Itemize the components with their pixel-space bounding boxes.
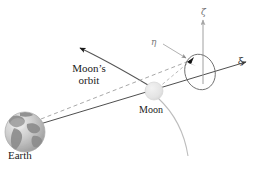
moon-orbit-label-line1: Moon’s: [58, 63, 120, 75]
earth-body: [5, 112, 45, 152]
moon-body: [145, 82, 163, 100]
orbital-diagram: Earth Moon Moon’s orbit ξ ζ η: [0, 0, 263, 171]
moon-orbit-label-line2: orbit: [58, 75, 120, 87]
moon-orbit-label: Moon’s orbit: [58, 63, 120, 86]
eta-axis-line: [163, 44, 186, 58]
diagram-canvas: [0, 0, 263, 171]
xi-axis-label: ξ: [238, 57, 243, 66]
moon-label: Moon: [139, 105, 163, 116]
zeta-axis-label: ζ: [201, 8, 206, 17]
eta-axis-label: η: [151, 38, 156, 47]
earth-label: Earth: [8, 150, 32, 162]
